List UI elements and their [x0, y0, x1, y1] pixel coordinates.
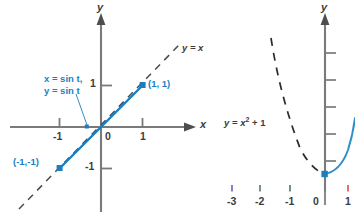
right-y-axis-label: y	[321, 2, 327, 14]
figure-container: y x -1 0 1 1 -1 y = x x = sin t,y = sin …	[0, 0, 355, 222]
left-chart-svg	[0, 0, 214, 222]
left-point-mid	[85, 125, 89, 129]
right-dashed-parabola-branch	[271, 38, 324, 174]
left-xtick-label-0: 0	[105, 131, 111, 142]
right-chart-svg	[214, 0, 355, 222]
left-ytick-label-neg1: -1	[85, 161, 94, 172]
left-point-label-1-1: (1, 1)	[148, 79, 170, 89]
right-blue-parabola-branch	[324, 118, 355, 174]
right-xtick-label-neg2: -2	[255, 196, 264, 207]
left-parametric-label-line2: y = sin t	[44, 85, 80, 96]
right-vertex-point	[321, 171, 327, 177]
left-parametric-label-line1: x = sin t,	[44, 73, 82, 84]
right-curve-label-parabola: y = x2 + 1	[224, 118, 265, 128]
left-chart-panel: y x -1 0 1 1 -1 y = x x = sin t,y = sin …	[0, 0, 214, 222]
left-point-neg1-neg1	[57, 165, 63, 171]
right-chart-panel: y y = x2 + 1 -3 -2 -1 0 1	[214, 0, 355, 222]
right-curve-label-exponent: 2	[245, 116, 249, 123]
left-curve-label-y-equals-x: y = x	[182, 43, 203, 53]
left-x-axis-label: x	[200, 119, 206, 131]
right-xtick-label-neg1: -1	[285, 196, 294, 207]
right-xtick-label-1: 1	[345, 196, 351, 207]
right-xtick-label-neg3: -3	[227, 196, 236, 207]
left-point-1-1	[140, 82, 146, 88]
right-xtick-label-0: 0	[313, 196, 319, 207]
left-xtick-label-1: 1	[140, 131, 146, 142]
left-point-label-neg1-neg1: (-1,-1)	[13, 157, 39, 167]
left-leader-line	[76, 94, 87, 125]
left-xtick-label-neg1: -1	[53, 131, 62, 142]
left-y-axis	[97, 13, 106, 212]
left-y-axis-label: y	[97, 2, 103, 14]
left-parametric-label: x = sin t,y = sin t	[44, 73, 82, 96]
right-y-tickmarks	[325, 53, 336, 161]
left-ytick-label-1: 1	[90, 78, 96, 89]
